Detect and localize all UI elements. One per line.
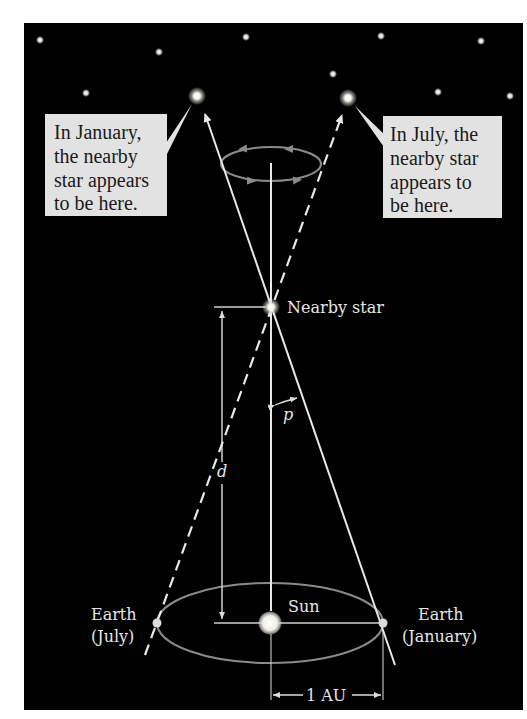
star-icon xyxy=(329,70,337,78)
star-icon xyxy=(477,37,485,45)
star-icon xyxy=(506,92,514,100)
sun-icon xyxy=(258,611,282,635)
july-callout-line-3: appears to xyxy=(390,171,472,194)
star-icon xyxy=(36,36,44,44)
nearby-star-label: Nearby star xyxy=(287,298,384,317)
earth-january-label-line-2: (January) xyxy=(402,627,477,646)
star-icon xyxy=(82,89,90,97)
star-icon xyxy=(434,88,442,96)
earth-july-icon xyxy=(153,619,162,628)
july-callout: In July, the nearby star appears to be h… xyxy=(383,116,502,218)
sun-label: Sun xyxy=(288,597,320,616)
star-icon xyxy=(155,48,163,56)
parallax-angle-label: p xyxy=(283,405,293,424)
january-callout: In January, the nearby star appears to b… xyxy=(45,114,167,216)
january-callout-line-3: star appears xyxy=(54,169,149,192)
earth-january-icon xyxy=(379,619,388,628)
earth-january-label-line-1: Earth xyxy=(418,605,464,624)
star-icon xyxy=(242,33,250,41)
earth-july-label-line-2: (July) xyxy=(91,627,134,646)
july-callout-line-1: In July, the xyxy=(390,123,478,146)
january-callout-line-4: to be here. xyxy=(54,192,138,214)
july-callout-line-2: nearby star xyxy=(390,147,479,170)
july-callout-line-4: be here. xyxy=(390,194,453,216)
au-label: 1 AU xyxy=(306,686,346,705)
distance-label: d xyxy=(217,462,227,481)
star-icon xyxy=(377,32,385,40)
january-callout-line-1: In January, xyxy=(54,121,142,144)
parallax-diagram: In January, the nearby star appears to b… xyxy=(0,0,527,719)
january-callout-line-2: the nearby xyxy=(54,145,138,168)
july-apparent-star-icon xyxy=(339,89,357,107)
earth-july-label-line-1: Earth xyxy=(91,605,137,624)
nearby-star-icon xyxy=(262,298,280,316)
january-apparent-star-icon xyxy=(188,87,206,105)
